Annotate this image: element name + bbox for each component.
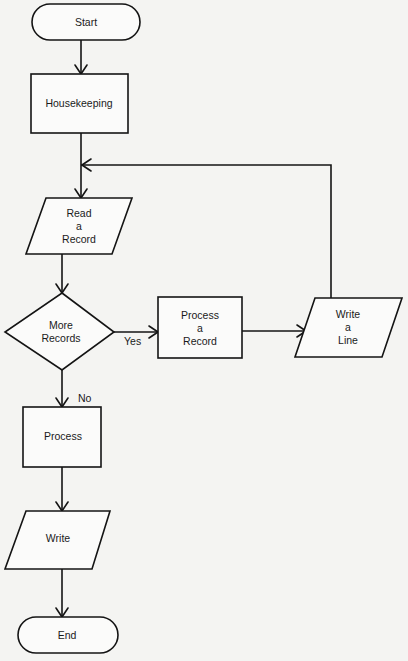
write-line-label: Write a Line bbox=[336, 308, 360, 347]
yes-edge-label: Yes bbox=[124, 335, 141, 347]
no-edge-label: No bbox=[78, 392, 91, 404]
read-record-label: Read a Record bbox=[62, 207, 96, 246]
end-label: End bbox=[58, 629, 77, 642]
start-label: Start bbox=[75, 16, 97, 29]
write-label: Write bbox=[46, 532, 70, 545]
more-records-label: More Records bbox=[41, 319, 80, 345]
process-label: Process bbox=[44, 430, 82, 443]
process-record-label: Process a Record bbox=[181, 309, 219, 348]
housekeeping-label: Housekeeping bbox=[45, 97, 112, 110]
flowchart: Start Housekeeping Read a Record More Re… bbox=[0, 0, 408, 661]
